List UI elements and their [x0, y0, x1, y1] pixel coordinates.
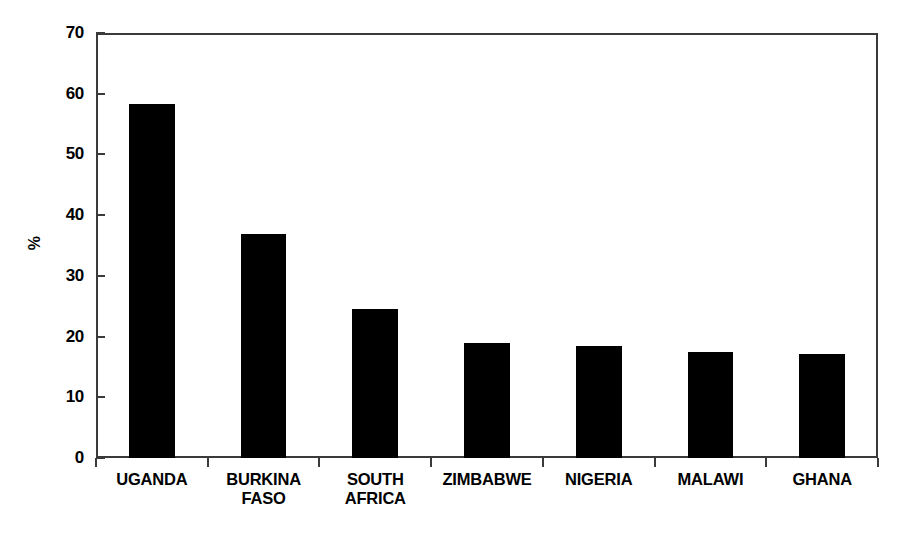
x-tick-mark	[765, 458, 767, 467]
bar	[688, 352, 734, 458]
y-tick-label: 60	[26, 84, 84, 104]
x-axis-category-label: MALAWI	[655, 470, 767, 489]
x-axis-category-label-line: FASO	[208, 489, 320, 508]
bar	[241, 234, 287, 458]
bar-chart-figure: % 010203040506070 UGANDABURKINAFASOSOUTH…	[0, 0, 901, 545]
bar	[799, 354, 845, 458]
bar	[352, 309, 398, 458]
y-axis-label: %	[10, 218, 60, 268]
bars-group	[96, 33, 878, 458]
x-axis-category-label-line: ZIMBABWE	[431, 470, 543, 489]
x-axis-category-label: UGANDA	[96, 470, 208, 489]
y-tick-label: 70	[26, 23, 84, 43]
y-tick-label: 10	[26, 387, 84, 407]
x-tick-mark	[542, 458, 544, 467]
bar	[576, 346, 622, 458]
x-axis-category-label-line: SOUTH	[319, 470, 431, 489]
x-tick-mark	[318, 458, 320, 467]
bar	[129, 104, 175, 458]
y-tick-label: 50	[26, 144, 84, 164]
x-axis-category-label: SOUTHAFRICA	[319, 470, 431, 508]
y-tick-label: 20	[26, 327, 84, 347]
y-tick-label: 30	[26, 266, 84, 286]
x-axis-category-label-line: MALAWI	[655, 470, 767, 489]
x-tick-mark	[95, 458, 97, 467]
x-axis-category-label-line: AFRICA	[319, 489, 431, 508]
x-axis-category-label: BURKINAFASO	[208, 470, 320, 508]
x-tick-mark	[430, 458, 432, 467]
x-tick-mark	[654, 458, 656, 467]
y-tick-label: 40	[26, 205, 84, 225]
x-axis-category-label-line: UGANDA	[96, 470, 208, 489]
x-tick-mark	[207, 458, 209, 467]
cut-off-caption	[0, 538, 901, 545]
x-axis-category-label-line: BURKINA	[208, 470, 320, 489]
x-axis-category-label: ZIMBABWE	[431, 470, 543, 489]
x-axis-category-label-line: NIGERIA	[543, 470, 655, 489]
y-tick-label: 0	[26, 448, 84, 468]
x-axis-category-label: NIGERIA	[543, 470, 655, 489]
x-axis-category-label: GHANA	[766, 470, 878, 489]
x-tick-mark	[877, 458, 879, 467]
bar	[464, 343, 510, 458]
x-axis-category-label-line: GHANA	[766, 470, 878, 489]
